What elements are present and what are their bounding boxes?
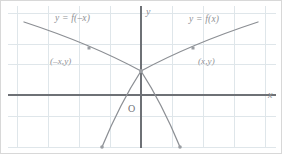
curve-lower-right-branch (141, 71, 180, 147)
origin-label: O (128, 104, 135, 114)
x-axis-label: x (268, 90, 272, 100)
curve-label-f-of-x: y = f(x) (189, 15, 219, 25)
graph-canvas (0, 0, 282, 154)
curve-label-f-of-neg-x: y = f(–x) (55, 14, 90, 24)
point-label-x-y: (x,y) (198, 57, 215, 66)
marker-lower-right-end (178, 145, 182, 149)
marker-point-neg-x-y (88, 47, 91, 50)
function-symmetry-graph: y = f(–x) y = f(x) (–x,y) (x,y) y x O (0, 0, 282, 154)
marker-vertex (139, 69, 143, 73)
marker-lower-left-end (100, 145, 104, 149)
point-label-neg-x-y: (–x,y) (50, 57, 71, 66)
marker-point-x-y (192, 47, 195, 50)
y-axis-label: y (146, 7, 150, 17)
